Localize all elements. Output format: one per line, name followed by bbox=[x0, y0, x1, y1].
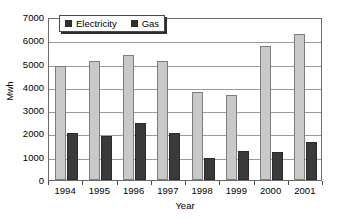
legend-swatch-icon bbox=[65, 20, 72, 27]
bar-gas bbox=[192, 92, 203, 180]
y-axis-tick-label: 2000 bbox=[2, 129, 44, 139]
legend-label: Electricity bbox=[76, 19, 117, 29]
x-axis-tick bbox=[322, 181, 323, 185]
legend-entry: Gas bbox=[131, 19, 159, 29]
legend-label: Gas bbox=[142, 19, 159, 29]
chart-legend: ElectricityGas bbox=[59, 15, 165, 32]
bar-gas bbox=[260, 46, 271, 180]
y-axis-tick-label: 4000 bbox=[2, 83, 44, 93]
bar-gas bbox=[226, 95, 237, 180]
x-axis-tick-label: 1999 bbox=[219, 185, 253, 197]
bar-gas bbox=[294, 34, 305, 180]
x-axis-tick-label: 1996 bbox=[117, 185, 151, 197]
x-axis-tick-label: 2001 bbox=[288, 185, 322, 197]
y-axis-tick-label: 1000 bbox=[2, 153, 44, 163]
bar-gas bbox=[89, 61, 100, 180]
y-axis-tick-label: 0 bbox=[2, 176, 44, 186]
bar-electricity bbox=[204, 158, 215, 180]
bar-electricity bbox=[101, 136, 112, 180]
y-axis-tick-label: 6000 bbox=[2, 36, 44, 46]
x-axis-title: Year bbox=[48, 200, 322, 211]
x-axis-tick-label: 1995 bbox=[82, 185, 116, 197]
bar-gas bbox=[123, 55, 134, 180]
x-axis-tick-label: 1997 bbox=[151, 185, 185, 197]
x-axis-tick-labels: 19941995199619971998199920002001 bbox=[48, 185, 322, 199]
bar-electricity bbox=[169, 133, 180, 180]
bar-electricity bbox=[272, 152, 283, 180]
legend-swatch-icon bbox=[131, 20, 138, 27]
bar-electricity bbox=[67, 133, 78, 180]
x-axis-tick-label: 1998 bbox=[185, 185, 219, 197]
bar-electricity bbox=[306, 142, 317, 180]
bar-electricity bbox=[135, 123, 146, 180]
x-axis-tick-label: 2000 bbox=[254, 185, 288, 197]
bars-layer bbox=[49, 19, 321, 180]
y-axis-tick-labels: 01000200030004000500060007000 bbox=[0, 0, 44, 219]
legend-entry: Electricity bbox=[65, 19, 117, 29]
bar-gas bbox=[157, 61, 168, 180]
y-axis-tick-label: 5000 bbox=[2, 60, 44, 70]
x-axis-tick-label: 1994 bbox=[48, 185, 82, 197]
bar-electricity bbox=[238, 151, 249, 180]
y-axis-tick-label: 3000 bbox=[2, 106, 44, 116]
bar-gas bbox=[55, 66, 66, 180]
bar-chart: Mwh 01000200030004000500060007000 199419… bbox=[0, 0, 337, 219]
y-axis-tick-label: 7000 bbox=[2, 13, 44, 23]
plot-area bbox=[48, 18, 322, 181]
